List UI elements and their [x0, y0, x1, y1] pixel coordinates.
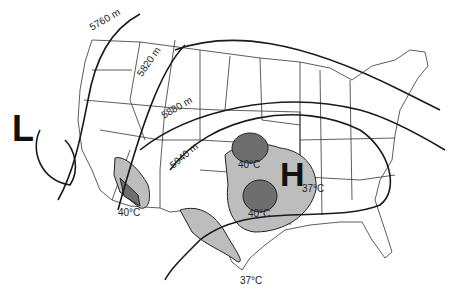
temp-label-southwest: 40°C	[118, 207, 140, 218]
us-basemap	[0, 0, 459, 294]
weather-map: 5760 m 5820 m 5880 m 5940 m L H 40°C 40°…	[0, 0, 459, 294]
temp-label-south-texas: 37°C	[240, 275, 262, 286]
temperature-shading	[114, 133, 316, 262]
temp-label-arkansas: 37°C	[302, 183, 324, 194]
low-pressure-symbol: L	[12, 108, 34, 150]
temp-label-kansas: 40°C	[238, 159, 260, 170]
temp-label-oklahoma: 40°C	[248, 208, 270, 219]
high-pressure-symbol: H	[280, 155, 305, 194]
